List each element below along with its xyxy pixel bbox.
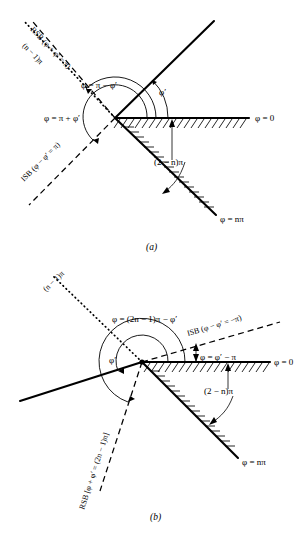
wedge-angle-label-a: (2 − n)π (154, 157, 184, 167)
isb-label-b: ISB (φ − φ′ = −π) (186, 313, 243, 338)
phi-prime-minus-pi-label-b: φ = φ′ − π (200, 352, 237, 362)
phi-zero-label-b: φ = 0 (274, 357, 294, 367)
phi-npi-label-b: φ = nπ (242, 457, 266, 467)
leader-wedge-bottom-b (213, 396, 233, 422)
incident-ray-a (115, 21, 214, 118)
panel-b-diagram: (n − 1)π φ = (2n − 1)π − φ′ ISB (φ − φ′ … (0, 265, 307, 535)
arrow-phi-prime-minus-pi-down-b (193, 354, 199, 362)
phi-2n-minus-label-b: φ = (2n − 1)π − φ′ (112, 314, 177, 324)
dotted-line-label-a: (n − 1)π (21, 41, 45, 66)
phi-pi-plus-label-a: φ = π + φ′ (44, 113, 80, 123)
arrow-phi-pi-plus-a (93, 138, 99, 144)
vertex-dot-b (139, 359, 144, 364)
arc-phi-prime-a (152, 80, 168, 118)
rsb-label-b: RSB [φ + φ′ = (2n − 1)π] (77, 431, 110, 511)
phi-prime-label-b: φ′ (109, 355, 116, 365)
phi-npi-label-a: φ = nπ (220, 214, 244, 224)
phi-prime-label-a: φ′ (159, 87, 166, 97)
isb-label-a: ISB (φ − φ′ = π) (19, 140, 62, 184)
arc-phi-prime-b (116, 335, 168, 371)
rsb-label-a: RSB (φ + φ′ = π) (29, 25, 73, 71)
phi-pi-minus-label-a: φ = π − φ′ (81, 80, 117, 90)
hatching-phi0-b (144, 363, 269, 372)
arrow-wedge-top-a (169, 119, 175, 127)
panel-caption-a: (a) (146, 242, 157, 253)
wedge-angle-label-b: (2 − n)π (204, 386, 234, 396)
panel-a-diagram: RSB (φ + φ′ = π) (n − 1)π ISB (φ − φ′ = … (0, 0, 307, 265)
rsb-line-b (100, 362, 142, 491)
panel-caption-b: (b) (150, 512, 161, 523)
arrow-wedge-bottom-b (209, 417, 217, 425)
arrow-phi-2n-minus-b (128, 396, 135, 402)
dotted-line-label-b: (n − 1)π (41, 269, 66, 293)
phi-zero-label-a: φ = 0 (255, 113, 275, 123)
incident-ray-b (20, 362, 142, 401)
figure-root: RSB (φ + φ′ = π) (n − 1)π ISB (φ − φ′ = … (0, 0, 307, 535)
